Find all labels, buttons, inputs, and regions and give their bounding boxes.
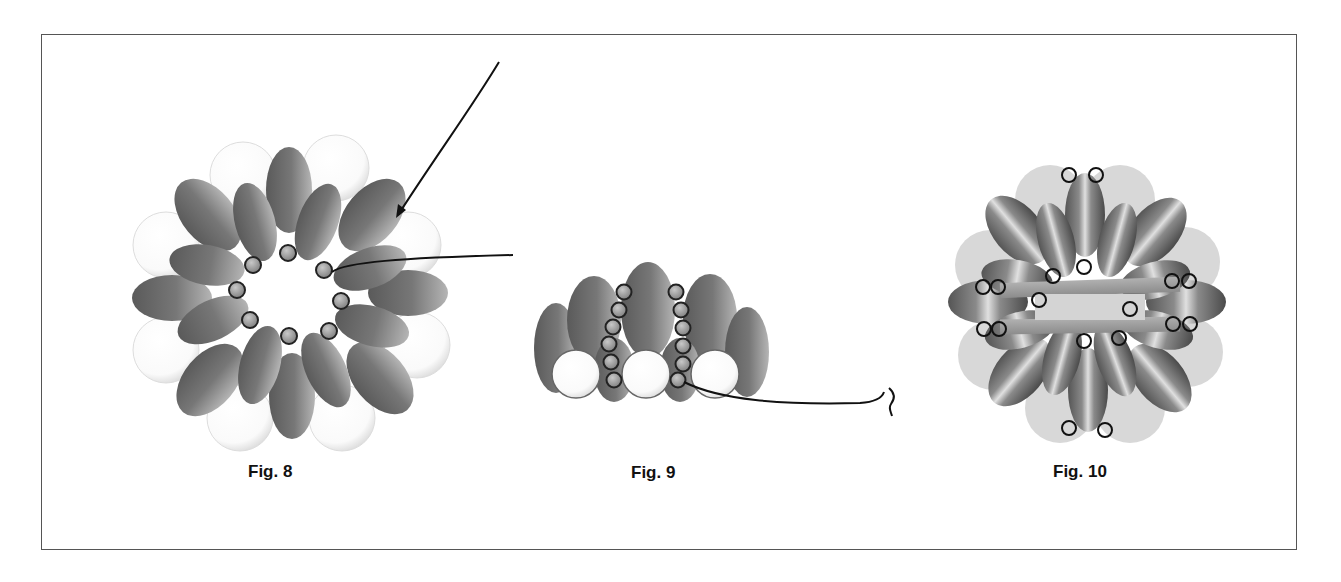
thread-break-icon — [889, 388, 894, 416]
outer-drop-beads — [132, 147, 448, 439]
seed-beads — [229, 245, 349, 344]
fig9-diagram — [534, 262, 894, 416]
thread-arrow — [398, 62, 499, 215]
bead-diagrams — [0, 0, 1341, 582]
fig8-diagram — [132, 62, 513, 451]
fig9-caption: Fig. 9 — [631, 463, 675, 483]
fig8-caption: Fig. 8 — [248, 462, 292, 482]
fig10-caption: Fig. 10 — [1053, 462, 1107, 482]
round-beads — [552, 350, 739, 398]
fig10-diagram — [948, 165, 1226, 443]
